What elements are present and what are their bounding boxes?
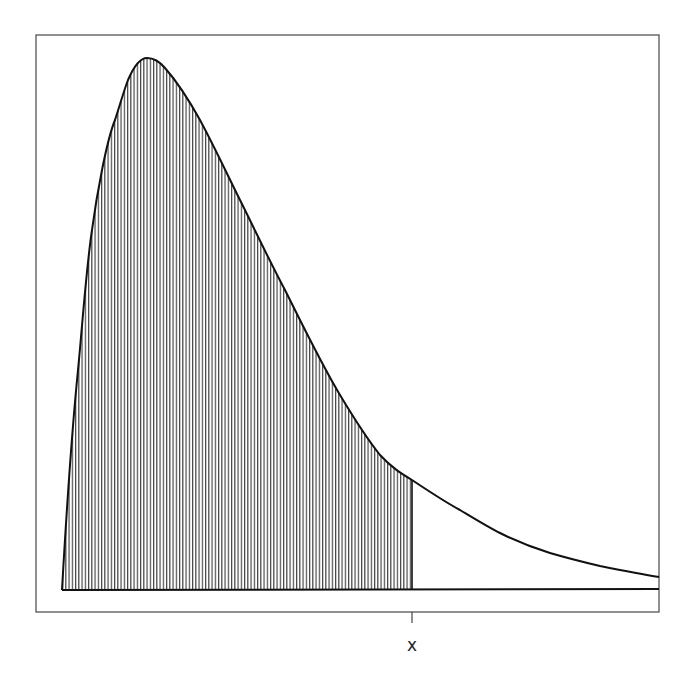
x-tick-label: x	[407, 635, 417, 655]
density-chart: x	[0, 0, 695, 692]
baseline	[62, 589, 659, 590]
shaded-area	[60, 50, 414, 592]
